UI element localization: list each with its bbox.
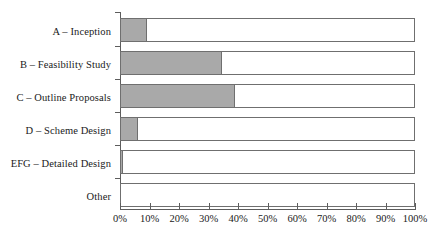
category-label-0: A – Inception xyxy=(0,26,111,37)
bar-fill-0 xyxy=(120,18,147,42)
x-axis-tick-0 xyxy=(120,203,121,210)
category-label-1: B – Feasibility Study xyxy=(0,59,111,70)
x-axis-tick-1 xyxy=(150,203,151,210)
category-axis: A – Inception B – Feasibility Study C – … xyxy=(0,14,115,205)
bar-row xyxy=(120,51,415,75)
category-label-2: C – Outline Proposals xyxy=(0,92,111,103)
bar-row xyxy=(120,18,415,42)
x-axis-tick-2 xyxy=(179,203,180,210)
x-axis-tick-3 xyxy=(209,203,210,210)
bar-fill-4 xyxy=(120,150,123,174)
horizontal-bar-chart: A – Inception B – Feasibility Study C – … xyxy=(0,0,445,240)
plot-area xyxy=(120,14,415,205)
bar-fill-3 xyxy=(120,117,138,141)
x-axis-tick-4 xyxy=(238,203,239,210)
x-axis-tick-10 xyxy=(415,203,416,210)
bar-fill-1 xyxy=(120,51,222,75)
bar-total-track xyxy=(120,117,415,141)
x-axis-tick-6 xyxy=(297,203,298,210)
x-axis-tick-9 xyxy=(386,203,387,210)
bar-row xyxy=(120,150,415,174)
x-axis-tick-label-10: 100% xyxy=(392,213,438,225)
category-label-5: Other xyxy=(0,191,111,202)
bar-total-track xyxy=(120,150,415,174)
y-axis-tick-top xyxy=(115,12,121,13)
bar-row xyxy=(120,84,415,108)
bar-total-track xyxy=(120,18,415,42)
x-axis-tick-8 xyxy=(356,203,357,210)
category-label-3: D – Scheme Design xyxy=(0,125,111,136)
x-axis-tick-7 xyxy=(327,203,328,210)
x-axis-tick-5 xyxy=(268,203,269,210)
bar-row xyxy=(120,117,415,141)
category-label-4: EFG – Detailed Design xyxy=(0,158,111,169)
bar-fill-2 xyxy=(120,84,235,108)
